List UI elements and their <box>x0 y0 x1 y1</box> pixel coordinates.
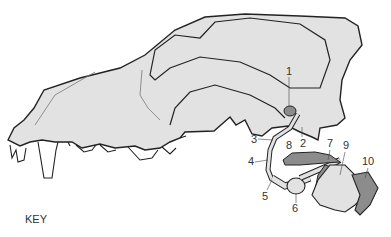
basihyoid <box>287 178 305 194</box>
label-9: 9 <box>343 140 349 151</box>
label-5: 5 <box>262 191 268 202</box>
label-4: 4 <box>248 156 254 167</box>
label-2: 2 <box>300 138 306 149</box>
label-6: 6 <box>292 203 298 214</box>
epiglottis <box>283 152 340 165</box>
label-7: 7 <box>327 138 333 149</box>
external-acoustic-meatus <box>284 106 296 116</box>
skull-diagram <box>0 0 391 237</box>
label-8: 8 <box>286 140 292 151</box>
label-10: 10 <box>362 156 374 167</box>
key-label: KEY <box>25 213 47 225</box>
label-3: 3 <box>251 134 257 145</box>
label-1: 1 <box>286 66 292 77</box>
